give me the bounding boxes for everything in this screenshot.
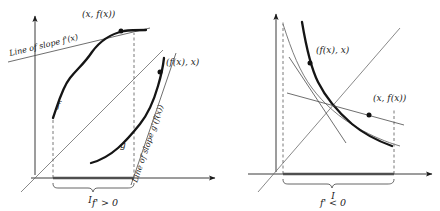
point-x-fx-right xyxy=(367,113,372,118)
slope-label-g-left: Line of slope g'(f(x)) xyxy=(130,103,165,184)
curve-label-g: g xyxy=(120,140,126,150)
interval-brace-right xyxy=(283,179,394,188)
point-x-fx-left xyxy=(119,29,124,34)
point-label-x-fx-right: (x, f(x)) xyxy=(373,93,407,103)
slope-label-f-left: Line of slope f'(x) xyxy=(7,33,79,58)
point-fx-x-right xyxy=(308,61,313,66)
interval-brace-left xyxy=(53,183,134,192)
inverse-derivative-figure: f g (x, f(x)) (f(x), x) Line of slope f'… xyxy=(0,0,440,211)
figure-svg: f g (x, f(x)) (f(x), x) Line of slope f'… xyxy=(0,0,440,211)
curve-label-f: f xyxy=(56,100,62,110)
panel-right: (f(x), x) (x, f(x)) I f' < 0 xyxy=(248,14,432,208)
point-label-fx-x-right: (f(x), x) xyxy=(316,45,350,55)
curve-g-right xyxy=(283,24,400,146)
panel-left: f g (x, f(x)) (f(x), x) Line of slope f'… xyxy=(7,9,215,208)
point-label-fx-x-left: (f(x), x) xyxy=(166,57,200,67)
point-fx-x-left xyxy=(158,70,163,75)
curve-f-right xyxy=(302,22,392,146)
caption-right: f' < 0 xyxy=(319,197,346,208)
caption-left: f' > 0 xyxy=(91,197,118,208)
point-label-x-fx-left: (x, f(x)) xyxy=(82,9,116,19)
